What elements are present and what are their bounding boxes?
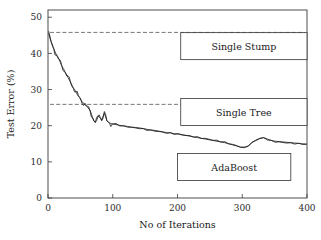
legend-group: Single StumpSingle TreeAdaBoost [178,33,308,181]
y-tick-label: 20 [31,121,43,131]
y-tick-label: 10 [31,157,43,167]
chart-figure: 010020030040001020304050 Single StumpSin… [0,0,321,240]
y-tick-label: 40 [31,49,43,59]
y-axis-title: Test Error (%) [5,70,16,139]
legend-label-adaboost: AdaBoost [210,162,257,173]
legend-label-tree: Single Tree [216,107,272,118]
chart-svg: 010020030040001020304050 Single StumpSin… [0,0,321,240]
y-tick-label: 0 [36,193,42,203]
x-tick-label: 300 [234,203,251,213]
legend-label-stump: Single Stump [211,41,276,52]
x-tick-label: 0 [45,203,51,213]
x-tick-label: 400 [298,203,315,213]
y-tick-label: 50 [31,12,43,22]
x-tick-label: 200 [169,203,186,213]
x-axis-title: No of Iterations [139,219,215,230]
y-tick-label: 30 [31,85,43,95]
x-tick-label: 100 [104,203,121,213]
